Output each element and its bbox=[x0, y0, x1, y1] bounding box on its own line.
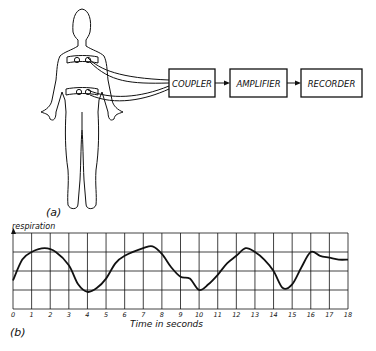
amplifier-label: AMPLIFIER bbox=[235, 79, 280, 89]
block-diagram: COUPLER AMPLIFIER RECORDER bbox=[169, 69, 362, 97]
x-tick-label: 4 bbox=[85, 311, 89, 319]
x-tick-label: 0 bbox=[11, 311, 15, 319]
arrow-icon bbox=[224, 81, 230, 86]
x-tick-label: 2 bbox=[48, 311, 52, 319]
x-tick-label: 17 bbox=[325, 311, 334, 319]
x-tick-label: 5 bbox=[104, 311, 108, 319]
x-tick-label: 13 bbox=[251, 311, 259, 319]
x-tick-label: 14 bbox=[269, 311, 277, 319]
part-b-label: (b) bbox=[10, 326, 26, 339]
x-tick-label: 16 bbox=[307, 311, 315, 319]
x-tick-label: 7 bbox=[141, 311, 146, 319]
x-tick-label: 11 bbox=[214, 311, 222, 319]
x-tick-label: 3 bbox=[67, 311, 71, 319]
x-tick-label: 6 bbox=[123, 311, 127, 319]
part-a-label: (a) bbox=[46, 206, 61, 219]
figure: COUPLER AMPLIFIER RECORDER (a) respirati… bbox=[0, 0, 376, 351]
human-body-figure bbox=[41, 9, 169, 209]
x-tick-label: 8 bbox=[160, 311, 164, 319]
x-tick-label: 10 bbox=[195, 311, 203, 319]
x-tick-label: 9 bbox=[178, 311, 182, 319]
x-tick-label: 15 bbox=[288, 311, 296, 319]
respiration-chart: respiration 0123456789101112131415161718… bbox=[11, 222, 352, 329]
x-axis-label: Time in seconds bbox=[130, 319, 203, 329]
y-axis-label: respiration bbox=[12, 222, 55, 231]
x-tick-label: 12 bbox=[232, 311, 240, 319]
x-tick-label: 1 bbox=[30, 311, 34, 319]
arrow-icon bbox=[295, 81, 301, 86]
recorder-label: RECORDER bbox=[308, 79, 356, 89]
x-tick-label: 18 bbox=[344, 311, 352, 319]
coupler-label: COUPLER bbox=[172, 79, 212, 89]
